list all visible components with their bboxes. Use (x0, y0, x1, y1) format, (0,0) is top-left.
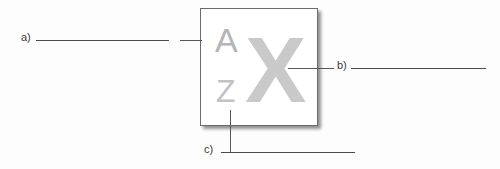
answer-blank-c[interactable] (221, 152, 355, 153)
leader-line-c (230, 110, 231, 152)
answer-blank-a[interactable] (36, 40, 169, 41)
glyph-letter-z: Z (216, 75, 236, 107)
callout-label-a: a) (21, 31, 31, 43)
answer-blank-b[interactable] (351, 68, 486, 69)
leader-line-a (180, 40, 202, 41)
glyph-letter-x: X (245, 24, 306, 116)
glyph-letter-a: A (215, 23, 238, 57)
callout-label-c: c) (204, 143, 213, 155)
diagram-canvas: A Z X a) b) c) (0, 0, 500, 169)
leader-line-b (288, 68, 334, 69)
icon-box: A Z X (200, 8, 318, 126)
callout-label-b: b) (337, 59, 347, 71)
